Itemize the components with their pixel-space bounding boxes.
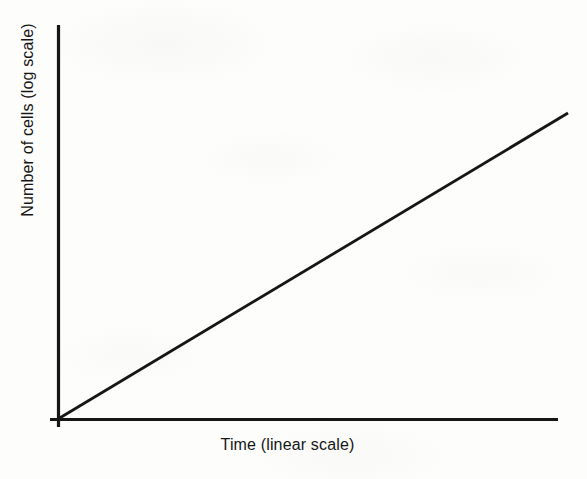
growth-curve bbox=[58, 113, 568, 419]
y-axis-title: Number of cells (log scale) bbox=[20, 0, 42, 340]
x-axis-title: Time (linear scale) bbox=[0, 437, 575, 453]
figure-root: Number of cells (log scale) Time (linear… bbox=[0, 0, 587, 479]
plot-canvas bbox=[0, 0, 587, 479]
